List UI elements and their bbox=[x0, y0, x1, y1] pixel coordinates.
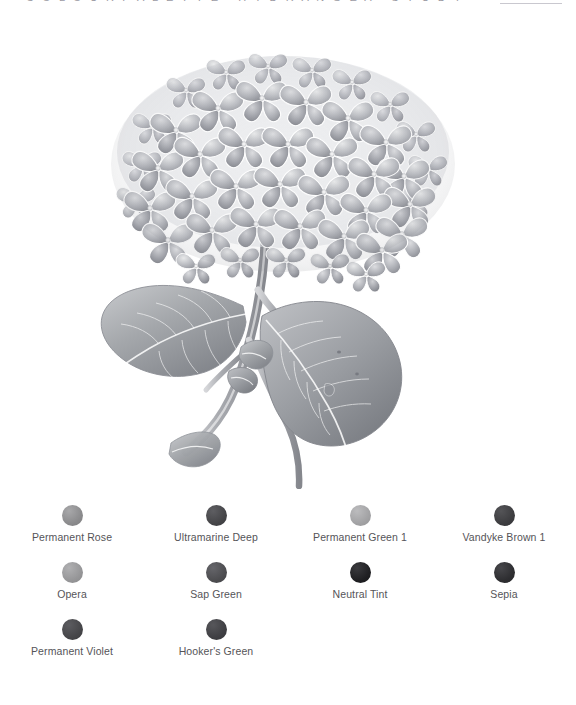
swatch-dot-permanent-rose bbox=[62, 505, 83, 526]
swatch-label-sap-green: Sap Green bbox=[190, 588, 242, 601]
swatch-label-permanent-violet: Permanent Violet bbox=[31, 645, 113, 658]
swatch-label-permanent-rose: Permanent Rose bbox=[32, 531, 112, 544]
header-rule bbox=[500, 3, 562, 4]
swatch-ultramarine-deep[interactable]: Ultramarine Deep bbox=[144, 505, 288, 562]
swatch-label-permanent-green-1: Permanent Green 1 bbox=[313, 531, 407, 544]
swatch-dot-neutral-tint bbox=[350, 562, 371, 583]
swatch-opera[interactable]: Opera bbox=[0, 562, 144, 619]
swatch-label-neutral-tint: Neutral Tint bbox=[333, 588, 388, 601]
swatch-neutral-tint[interactable]: Neutral Tint bbox=[288, 562, 432, 619]
swatch-sepia[interactable]: Sepia bbox=[432, 562, 576, 619]
swatch-dot-sepia bbox=[494, 562, 515, 583]
swatch-dot-sap-green bbox=[206, 562, 227, 583]
swatch-dot-hookers-green bbox=[206, 619, 227, 640]
clipped-header-text: C O L O U R P A L E T T E · H Y D R A N … bbox=[26, 0, 464, 3]
swatch-label-opera: Opera bbox=[57, 588, 87, 601]
swatch-permanent-rose[interactable]: Permanent Rose bbox=[0, 505, 144, 562]
palette-grid: Permanent Rose Ultramarine Deep Permanen… bbox=[0, 505, 576, 676]
swatch-label-ultramarine-deep: Ultramarine Deep bbox=[174, 531, 258, 544]
swatch-sap-green[interactable]: Sap Green bbox=[144, 562, 288, 619]
swatch-label-sepia: Sepia bbox=[490, 588, 517, 601]
flower-head-group bbox=[111, 54, 455, 292]
swatch-dot-vandyke-brown-1 bbox=[494, 505, 515, 526]
leaf-group bbox=[101, 285, 401, 466]
swatch-permanent-green-1[interactable]: Permanent Green 1 bbox=[288, 505, 432, 562]
swatch-dot-ultramarine-deep bbox=[206, 505, 227, 526]
swatch-dot-permanent-violet bbox=[62, 619, 83, 640]
swatch-label-vandyke-brown-1: Vandyke Brown 1 bbox=[462, 531, 545, 544]
swatch-dot-opera bbox=[62, 562, 83, 583]
swatch-permanent-violet[interactable]: Permanent Violet bbox=[0, 619, 144, 676]
hydrangea-illustration bbox=[0, 34, 576, 489]
swatch-hookers-green[interactable]: Hooker's Green bbox=[144, 619, 288, 676]
swatch-label-hookers-green: Hooker's Green bbox=[179, 645, 254, 658]
swatch-vandyke-brown-1[interactable]: Vandyke Brown 1 bbox=[432, 505, 576, 562]
swatch-dot-permanent-green-1 bbox=[350, 505, 371, 526]
clipped-header-strip: C O L O U R P A L E T T E · H Y D R A N … bbox=[0, 0, 576, 7]
